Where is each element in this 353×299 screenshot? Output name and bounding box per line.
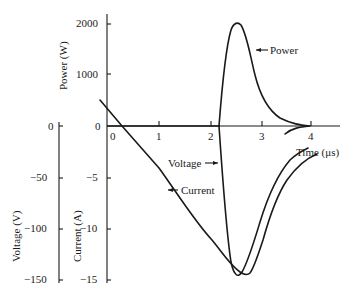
time-tick-3: 3 [259, 131, 265, 142]
power-tick-2000: 2000 [76, 18, 98, 29]
power-curve [219, 23, 310, 134]
voltage-axis-label: Voltage (V) [11, 211, 22, 262]
arrow-power [256, 48, 268, 52]
voltage-tick-50: −50 [30, 172, 47, 183]
arrow-voltage [205, 161, 218, 165]
voltage-tick-150: −150 [24, 274, 47, 285]
time-tick-0: 0 [110, 131, 116, 142]
voltage-curve [219, 126, 308, 275]
current-tick-5: −5 [86, 172, 98, 183]
current-tick-10: −10 [80, 223, 97, 234]
power-tick-1000: 1000 [76, 69, 98, 80]
power-tick-0: 0 [95, 121, 101, 132]
time-axis-label: Time (μs) [296, 147, 339, 158]
time-tick-1: 1 [156, 131, 162, 142]
power-axis-label: Power (W) [58, 41, 69, 90]
annotation-current: Current [181, 185, 215, 196]
arrow-current [168, 188, 178, 192]
annotation-power: Power [270, 45, 298, 56]
time-tick-4: 4 [308, 131, 314, 142]
voltage-tick-100: −100 [24, 223, 47, 234]
voltage-tick-0: 0 [48, 121, 54, 132]
current-tick-15: −15 [80, 274, 97, 285]
current-axis-label: Current (A) [72, 210, 83, 262]
time-tick-2: 2 [208, 131, 214, 142]
annotation-voltage: Voltage [168, 158, 201, 169]
